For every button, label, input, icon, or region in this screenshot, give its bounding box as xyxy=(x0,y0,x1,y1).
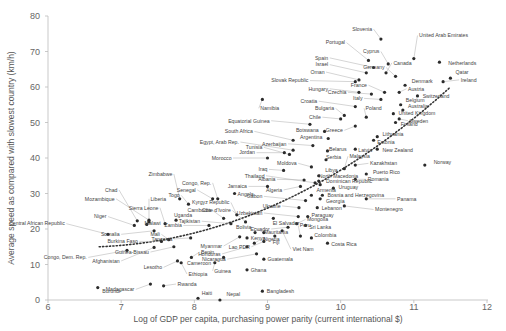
point-label: Guinea xyxy=(214,268,231,274)
data-point xyxy=(302,178,305,181)
point-label: Equatorial Guinea xyxy=(228,118,270,124)
point-label: Ireland xyxy=(461,77,477,83)
y-tick-label: 70 xyxy=(30,47,40,57)
data-point xyxy=(357,78,360,81)
point-label: Bulgaria xyxy=(315,105,334,111)
point-label: Gabon xyxy=(247,193,263,199)
point-label: Haiti xyxy=(202,290,212,296)
data-point xyxy=(310,165,313,168)
data-point xyxy=(288,153,291,156)
point-label: Israel xyxy=(316,61,329,67)
data-point xyxy=(449,77,452,80)
data-point xyxy=(229,222,232,225)
data-point xyxy=(207,224,210,227)
data-point xyxy=(379,37,382,40)
point-label: Guatemala xyxy=(268,256,293,262)
leader-line xyxy=(386,67,396,76)
data-point xyxy=(321,194,324,197)
leader-line xyxy=(282,206,299,208)
data-point xyxy=(292,149,295,152)
point-label: Sierra Leone xyxy=(129,205,159,211)
point-label: Central African Republic xyxy=(9,220,65,226)
x-tick-label: 12 xyxy=(482,302,492,312)
point-label: Afghanistan xyxy=(92,258,120,264)
leader-line xyxy=(277,179,304,180)
data-point xyxy=(319,183,322,186)
data-point xyxy=(133,224,136,227)
point-label: Namibia xyxy=(260,105,279,111)
data-point xyxy=(162,284,165,287)
point-label: United Kingdom xyxy=(399,110,436,116)
point-label: Malawi xyxy=(145,220,161,226)
point-label: United Arab Emirates xyxy=(419,32,468,38)
point-label: Fiji xyxy=(273,239,280,245)
point-label: Italy xyxy=(353,95,363,101)
leader-line xyxy=(227,254,256,259)
data-point xyxy=(174,219,177,222)
point-label: France xyxy=(351,82,367,88)
leader-line xyxy=(269,169,284,170)
data-point xyxy=(399,103,402,106)
y-tick-label: 50 xyxy=(30,118,40,128)
x-tick-label: 7 xyxy=(119,302,124,312)
point-label: Congo, Rep. xyxy=(182,180,211,186)
point-label: Iraq xyxy=(259,166,268,172)
point-label: Rwanda xyxy=(178,281,197,287)
point-label: Poland xyxy=(366,105,382,111)
data-point xyxy=(222,217,225,220)
point-label: Germany xyxy=(363,64,385,70)
point-label: Serbia xyxy=(326,154,341,160)
point-label: Tanzania xyxy=(152,236,173,242)
leader-line xyxy=(330,65,367,73)
data-point xyxy=(372,139,375,142)
data-point xyxy=(354,164,357,167)
leader-line xyxy=(271,121,310,125)
point-label: Bolivia xyxy=(236,224,251,230)
leader-line xyxy=(344,206,373,210)
y-ticks: 01020304050607080 xyxy=(30,11,48,305)
x-tick-label: 10 xyxy=(336,302,346,312)
data-point xyxy=(96,286,99,289)
leader-line xyxy=(174,238,191,239)
data-point xyxy=(367,59,370,62)
data-point xyxy=(261,290,264,293)
point-label: Qatar xyxy=(456,69,469,75)
data-point xyxy=(266,156,269,159)
point-label: South Africa xyxy=(225,128,253,134)
leader-line xyxy=(264,213,298,217)
x-axis-label: Log of GDP per capita, purchasing power … xyxy=(133,314,402,324)
leader-line xyxy=(254,131,293,140)
point-label: Ethiopia xyxy=(189,271,208,277)
point-label: Chad xyxy=(105,187,118,193)
point-label: Kyrgyz Republic xyxy=(192,199,230,205)
point-label: Ukraine xyxy=(263,203,281,209)
point-label: Egypt, Arab Rep. xyxy=(200,139,239,145)
point-label: Bangladesh xyxy=(267,288,295,294)
leader-line xyxy=(368,85,384,92)
data-point xyxy=(299,235,302,238)
point-label: Moldova xyxy=(277,160,297,166)
data-point xyxy=(326,242,329,245)
data-point xyxy=(297,215,300,218)
leader-line xyxy=(136,284,151,289)
data-point xyxy=(354,105,357,108)
point-label: Montenegro xyxy=(375,206,403,212)
y-axis-label: Average speed as compared with slowest c… xyxy=(6,51,16,265)
point-label: Togo xyxy=(168,192,179,198)
point-label: Guinea-Bissau xyxy=(115,249,149,255)
point-label: Madagascar xyxy=(106,286,135,292)
data-point xyxy=(304,199,307,202)
point-label: Zimbabwe xyxy=(148,171,172,177)
data-point xyxy=(339,117,342,120)
data-point xyxy=(187,203,190,206)
chart-canvas: 01020304050607080 6789101112 BurundiCent… xyxy=(0,0,506,331)
point-labels: BurundiCentral African RepublicCongo, De… xyxy=(9,26,477,298)
data-point xyxy=(365,71,368,74)
point-label: Sweden xyxy=(409,118,428,124)
point-label: Paraguay xyxy=(311,212,334,218)
data-point xyxy=(218,298,221,301)
point-label: Argentina xyxy=(300,134,322,140)
data-point xyxy=(149,282,152,285)
point-label: Ghana xyxy=(251,267,267,273)
data-point xyxy=(313,181,316,184)
